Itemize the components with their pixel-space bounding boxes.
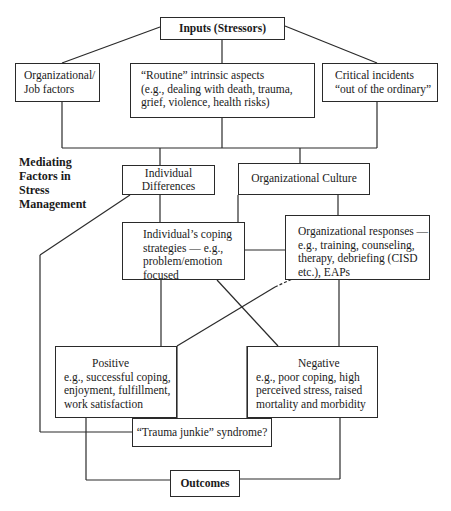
mediating-factors-label: Mediating Factors in Stress Management [19,155,86,211]
coping-strategies-box: Individual’s coping strategies — e.g., p… [122,222,245,280]
positive-line-2: enjoyment, fulfillment, [64,384,168,398]
coping-line-2: strategies — e.g., [143,242,236,256]
org-responses-line-4: etc.), EAPs [298,266,421,280]
negative-line-2: perceived stress, raised [256,384,369,398]
org-responses-line-3: therapy, debriefing (CISD [298,252,421,266]
routine-line-2: (e.g., dealing with death, trauma, [141,83,306,97]
mediating-label-line-1: Mediating [19,155,86,169]
routine-line-3: grief, violence, health risks) [141,96,306,110]
mediating-label-line-2: Factors in [19,169,86,183]
trauma-junkie-text: “Trauma junkie” syndrome? [137,426,268,440]
inputs-stressors-box: Inputs (Stressors) [160,17,285,40]
routine-aspects-box: “Routine” intrinsic aspects (e.g., deali… [130,63,315,118]
org-job-factors-box: Organizational/ Job factors [15,63,100,102]
outcomes-box: Outcomes [170,470,240,497]
positive-title: Positive [64,357,168,371]
coping-line-1: Individual’s coping [143,228,236,242]
critical-incidents-box: Critical incidents “out of the ordinary” [322,63,438,102]
mediating-label-line-3: Stress [19,183,86,197]
trauma-junkie-box: “Trauma junkie” syndrome? [132,418,272,447]
individual-differences-box: Individual Differences [122,165,215,195]
critical-line-1: Critical incidents [335,69,429,83]
inputs-title: Inputs (Stressors) [179,22,266,36]
org-job-line-1: Organizational/ [24,69,91,83]
routine-line-1: “Routine” intrinsic aspects [141,69,306,83]
coping-line-3: problem/emotion [143,255,236,269]
org-responses-line-1: Organizational responses — [298,225,421,239]
mediating-label-line-4: Management [19,197,86,211]
negative-outcome-box: Negative e.g., poor coping, high perceiv… [247,346,378,418]
positive-line-1: e.g., successful coping, [64,371,168,385]
outcomes-title: Outcomes [180,477,229,491]
negative-line-3: mortality and morbidity [256,398,369,412]
coping-line-4: focused [143,269,236,283]
negative-line-1: e.g., poor coping, high [256,371,369,385]
organizational-culture-box: Organizational Culture [238,163,370,195]
organizational-culture-text: Organizational Culture [251,172,357,186]
positive-outcome-box: Positive e.g., successful coping, enjoym… [55,346,177,418]
org-responses-line-2: e.g., training, counseling, [298,239,421,253]
negative-title: Negative [256,357,369,371]
organizational-responses-box: Organizational responses — e.g., trainin… [285,215,430,280]
positive-line-3: work satisfaction [64,398,168,412]
org-job-line-2: Job factors [24,83,91,97]
individual-differences-text: Individual Differences [123,167,214,194]
critical-line-2: “out of the ordinary” [335,83,429,97]
